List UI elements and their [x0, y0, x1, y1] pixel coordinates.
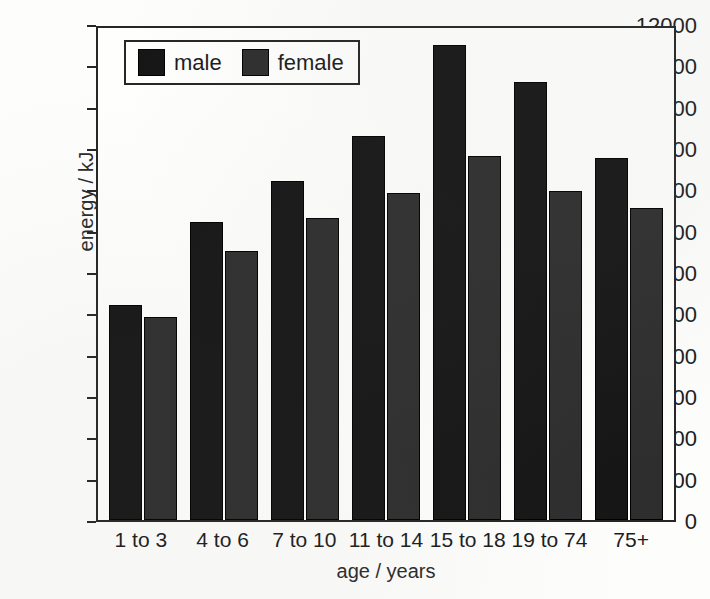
legend-entry-female: female: [242, 49, 344, 76]
legend-label-female: female: [278, 50, 344, 76]
y-axis-tickmark: [87, 521, 96, 523]
x-axis-tick-label: 19 to 74: [509, 524, 591, 558]
y-axis-tickmark: [87, 108, 96, 110]
legend-swatch-male: [138, 49, 165, 76]
bar-male: [109, 305, 142, 520]
plot-area: male female: [96, 26, 676, 522]
legend-entry-male: male: [138, 49, 222, 76]
bar-group: [183, 28, 264, 520]
y-axis-title: energy / kJ: [75, 112, 98, 292]
bar-female: [468, 156, 501, 520]
x-axis-tick-labels: 1 to 34 to 67 to 1011 to 1415 to 1819 to…: [96, 524, 676, 558]
bar-female: [630, 208, 663, 520]
bar-chart-figure: energy / kJ 1200011000100009000800070006…: [0, 0, 710, 599]
x-axis-tick-label: 15 to 18: [427, 524, 509, 558]
bar-group: [264, 28, 345, 520]
x-axis-tick-label: 4 to 6: [182, 524, 264, 558]
y-axis-tickmark: [87, 397, 96, 399]
bar-groups: [98, 28, 674, 520]
bar-group: [508, 28, 589, 520]
y-axis-tickmark: [87, 25, 96, 27]
bar-male: [514, 82, 547, 520]
legend-label-male: male: [174, 50, 222, 76]
bar-female: [549, 191, 582, 520]
y-axis-tickmark: [87, 314, 96, 316]
bar-female: [144, 317, 177, 520]
y-axis-tickmark: [87, 149, 96, 151]
y-axis-tickmark: [87, 273, 96, 275]
bar-male: [352, 136, 385, 520]
bar-group: [427, 28, 508, 520]
bar-male: [271, 181, 304, 520]
y-axis-tickmark: [87, 356, 96, 358]
bar-female: [387, 193, 420, 520]
bar-female: [306, 218, 339, 520]
y-axis-tickmark: [87, 66, 96, 68]
x-axis-tick-label: 75+: [590, 524, 672, 558]
x-axis-tick-label: 1 to 3: [100, 524, 182, 558]
x-axis-title: age / years: [96, 560, 676, 583]
bar-male: [433, 45, 466, 520]
bar-group: [345, 28, 426, 520]
bar-group: [589, 28, 670, 520]
chart-legend: male female: [124, 40, 360, 85]
legend-swatch-female: [242, 49, 269, 76]
bar-male: [595, 158, 628, 520]
y-axis-tickmark: [87, 190, 96, 192]
bar-male: [190, 222, 223, 520]
bar-female: [225, 251, 258, 520]
bar-group: [102, 28, 183, 520]
x-axis-tick-label: 11 to 14: [345, 524, 427, 558]
x-axis-tick-label: 7 to 10: [263, 524, 345, 558]
y-axis-tickmark: [87, 232, 96, 234]
y-axis-tickmark: [87, 438, 96, 440]
y-axis-tickmark: [87, 480, 96, 482]
